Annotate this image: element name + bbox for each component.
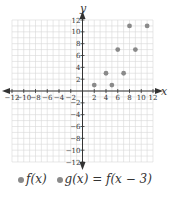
- svg-text:−8: −8: [70, 135, 80, 143]
- svg-text:−2: −2: [70, 99, 80, 107]
- svg-text:−10: −10: [66, 147, 81, 155]
- axes: [2, 11, 163, 170]
- svg-text:10: 10: [137, 94, 146, 102]
- data-point: [121, 71, 126, 76]
- data-point: [92, 83, 97, 88]
- svg-text:−6: −6: [42, 94, 53, 102]
- svg-text:8: 8: [76, 40, 80, 48]
- legend-label: g(x) = f(x − 3): [65, 172, 152, 186]
- svg-text:12: 12: [72, 17, 81, 25]
- y-axis-label: y: [79, 2, 87, 15]
- svg-text:−6: −6: [70, 123, 81, 131]
- svg-text:6: 6: [116, 94, 121, 102]
- data-point: [145, 24, 150, 29]
- data-point: [133, 47, 138, 52]
- svg-text:6: 6: [76, 52, 81, 60]
- svg-text:−12: −12: [66, 159, 81, 167]
- x-axis-label: x: [161, 85, 168, 98]
- svg-text:−4: −4: [70, 111, 81, 119]
- svg-text:8: 8: [127, 94, 131, 102]
- legend-marker-icon: [18, 177, 24, 183]
- svg-text:12: 12: [149, 94, 158, 102]
- legend-label: f(x): [26, 172, 47, 186]
- legend-item-g: g(x) = f(x − 3): [57, 172, 152, 186]
- legend: f(x) g(x) = f(x − 3): [0, 172, 170, 186]
- legend-item-f: f(x): [18, 172, 47, 186]
- svg-text:2: 2: [76, 76, 80, 84]
- svg-text:4: 4: [104, 94, 109, 102]
- svg-text:10: 10: [72, 28, 81, 36]
- data-point: [115, 47, 120, 52]
- svg-text:2: 2: [92, 94, 96, 102]
- legend-marker-icon: [57, 177, 63, 183]
- coordinate-plane: −12−10−8−6−4−224681012−12−10−8−6−4−22468…: [0, 0, 170, 170]
- data-point: [109, 83, 114, 88]
- data-point: [127, 24, 132, 29]
- svg-text:4: 4: [76, 64, 81, 72]
- data-point: [104, 71, 109, 76]
- svg-text:−4: −4: [54, 94, 65, 102]
- svg-text:−10: −10: [16, 94, 31, 102]
- svg-text:−8: −8: [30, 94, 40, 102]
